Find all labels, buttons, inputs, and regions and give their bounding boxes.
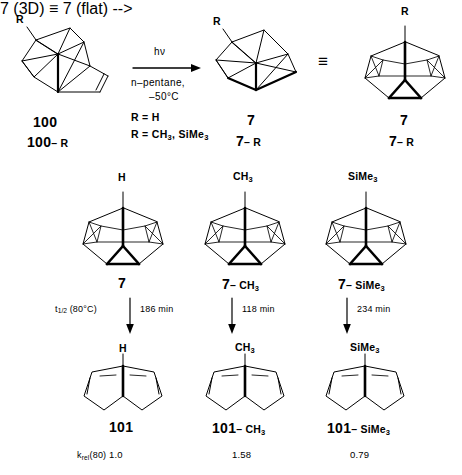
apex-label-7-sime3: SiMe3	[348, 171, 378, 184]
label-7-flat: 7	[400, 113, 408, 127]
structure-100	[12, 14, 124, 106]
label-101: 101	[109, 420, 133, 434]
structure-101-ch3	[202, 352, 288, 414]
solvent-label: n–pentane,	[131, 78, 185, 88]
arrow-2	[226, 298, 238, 334]
structure-7-3d	[210, 16, 306, 104]
apex-label-101-sime3: SiMe3	[350, 342, 380, 355]
label-cage-7: 7	[118, 276, 126, 290]
halflife-condition-h: t1/2 (80°C)	[55, 305, 97, 315]
temperature-label: –50°C	[149, 92, 179, 102]
structure-7-ch3	[199, 182, 291, 272]
halflife-value-h: 186 min	[140, 305, 173, 314]
label-100: 100	[33, 115, 57, 129]
apex-label-7-h: H	[118, 172, 126, 183]
label-7-flat-R: 7– R	[389, 133, 414, 149]
reaction-scheme: 7 (3D) ≡ 7 (flat) -->	[0, 0, 462, 475]
halflife-value-ch3: 118 min	[242, 305, 275, 314]
k-rel-label: krel(80) 1.0	[77, 450, 123, 461]
label-7-3d: 7	[247, 113, 255, 127]
k-rel-value-sime3: 0.79	[350, 450, 369, 460]
reagent-hv: hν	[154, 47, 165, 57]
k-rel-value-ch3: 1.58	[232, 450, 251, 460]
label-100-R: 100– R	[27, 134, 68, 150]
structure-7-h	[77, 182, 169, 272]
label-101-sime3: 101– SiMe3	[327, 420, 390, 437]
r-group-7-3d: R	[213, 16, 221, 27]
arrow-1	[124, 298, 136, 334]
label-cage-7-sime3: 7– SiMe3	[338, 276, 385, 293]
reaction-arrow	[133, 62, 201, 74]
label-101-ch3: 101– CH3	[212, 420, 265, 437]
halflife-value-sime3: 234 min	[357, 305, 390, 314]
structure-7-sime3	[320, 182, 412, 272]
r-group-7-flat: R	[401, 6, 409, 17]
equivalence-symbol: ≡	[318, 53, 328, 70]
apex-label-7-ch3: CH3	[233, 171, 253, 184]
structure-7-flat	[359, 16, 451, 106]
arrow-3	[341, 298, 353, 334]
substituent-R-CH3-SiMe3: R = CH3, SiMe3	[131, 129, 209, 142]
apex-label-101-h: H	[119, 343, 127, 354]
label-cage-7-ch3: 7– CH3	[222, 276, 259, 293]
substituent-R-H: R = H	[131, 112, 160, 123]
structure-101-h	[80, 352, 166, 414]
label-7-3d-R: 7– R	[236, 133, 261, 149]
r-group-100: R	[16, 14, 24, 25]
structure-101-sime3	[322, 352, 408, 414]
apex-label-101-ch3: CH3	[235, 342, 255, 355]
